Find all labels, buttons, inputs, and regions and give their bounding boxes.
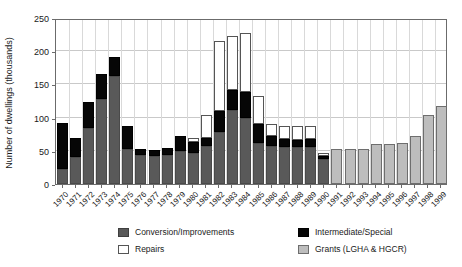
chart-legend: Conversion/ImprovementsIntermediate/Spec… xyxy=(118,228,448,262)
x-axis-tick-mark xyxy=(140,185,141,188)
x-axis-tick-mark xyxy=(427,185,428,188)
x-axis-tick-mark xyxy=(101,185,102,188)
x-axis-tick-mark xyxy=(375,185,376,188)
legend-swatch-conv-icon xyxy=(118,228,129,237)
x-axis-tick-mark xyxy=(192,185,193,188)
x-axis-tick-mark xyxy=(205,185,206,188)
legend-label: Intermediate/Special xyxy=(315,228,393,237)
x-axis-tick-mark xyxy=(284,185,285,188)
x-axis-tick-mark xyxy=(179,185,180,188)
legend-item-inter[interactable]: Intermediate/Special xyxy=(298,228,393,237)
x-axis-tick-mark xyxy=(75,185,76,188)
legend-item-rep[interactable]: Repairs xyxy=(118,245,164,254)
legend-swatch-rep-icon xyxy=(118,245,129,254)
x-axis-tick-mark xyxy=(310,185,311,188)
x-axis-tick-mark xyxy=(153,185,154,188)
legend-item-grant[interactable]: Grants (LGHA & HGCR) xyxy=(298,245,407,254)
x-axis-tick-mark xyxy=(244,185,245,188)
x-axis-tick-mark xyxy=(88,185,89,188)
x-axis-tick-mark xyxy=(297,185,298,188)
legend-label: Grants (LGHA & HGCR) xyxy=(315,245,407,254)
legend-item-conv[interactable]: Conversion/Improvements xyxy=(118,228,234,237)
legend-swatch-inter-icon xyxy=(298,228,309,237)
legend-swatch-grant-icon xyxy=(298,245,309,254)
x-axis-tick-mark xyxy=(388,185,389,188)
legend-label: Conversion/Improvements xyxy=(135,228,234,237)
x-axis-tick-mark xyxy=(440,185,441,188)
x-axis-tick-mark xyxy=(258,185,259,188)
x-axis-tick-mark xyxy=(349,185,350,188)
legend-label: Repairs xyxy=(135,245,164,254)
chart-container: Number of dwellings (thousands) 05010015… xyxy=(0,0,462,267)
x-axis-tick-mark xyxy=(62,185,63,188)
x-axis-tick-mark xyxy=(323,185,324,188)
x-axis-tick-mark xyxy=(166,185,167,188)
x-axis-tick-mark xyxy=(336,185,337,188)
x-axis-tick-mark xyxy=(114,185,115,188)
x-axis-tick-mark xyxy=(127,185,128,188)
x-axis-tick-mark xyxy=(271,185,272,188)
x-axis-tick-mark xyxy=(362,185,363,188)
x-axis-tick-mark xyxy=(231,185,232,188)
x-axis-tick-mark xyxy=(414,185,415,188)
x-axis-tick-mark xyxy=(218,185,219,188)
x-axis-tick-mark xyxy=(401,185,402,188)
